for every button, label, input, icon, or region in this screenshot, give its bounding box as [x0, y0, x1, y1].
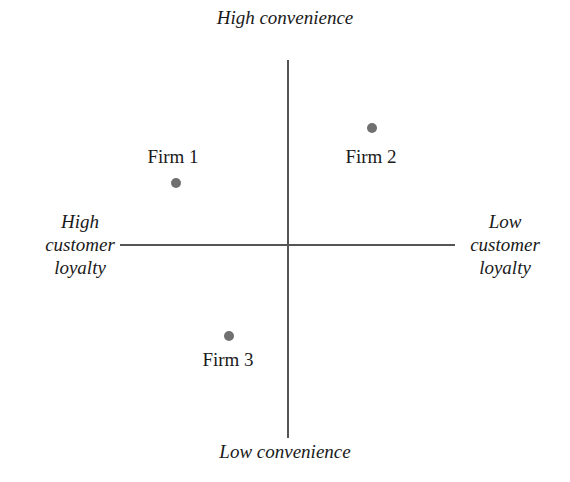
- firm-2-label: Firm 2: [345, 146, 396, 168]
- firm-3-label: Firm 3: [202, 349, 253, 371]
- axis-label-line: loyalty: [440, 256, 570, 279]
- axis-label-line: High: [20, 210, 140, 233]
- axis-label-high-convenience: High convenience: [0, 6, 570, 29]
- firm-3-point: [224, 331, 234, 341]
- axis-label-line: customer: [440, 233, 570, 256]
- firm-1-point: [171, 178, 181, 188]
- axis-label-high-customer-loyalty: High customer loyalty: [20, 210, 140, 279]
- convenience-axis: [287, 60, 289, 438]
- axis-label-line: Low: [440, 210, 570, 233]
- firm-2-point: [367, 123, 377, 133]
- customer-loyalty-axis: [120, 244, 455, 246]
- axis-label-line: customer: [20, 233, 140, 256]
- firm-1-label: Firm 1: [147, 146, 198, 168]
- axis-label-low-convenience: Low convenience: [0, 440, 570, 463]
- axis-label-low-customer-loyalty: Low customer loyalty: [440, 210, 570, 279]
- axis-label-line: loyalty: [20, 256, 140, 279]
